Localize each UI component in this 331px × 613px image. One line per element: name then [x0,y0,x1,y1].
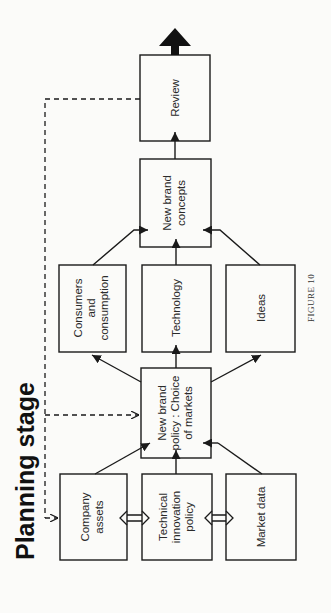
svg-text:New brand: New brand [161,175,173,231]
svg-text:Consumers: Consumers [72,278,84,337]
svg-text:innovation: innovation [170,491,182,543]
output-arrow-icon [159,28,191,55]
consumers-label: Consumers and consumption [72,275,110,340]
svg-text:Technical: Technical [157,493,169,541]
double-arrow-innovation-market [205,511,233,525]
svg-text:Company: Company [79,492,91,541]
new-brand-concepts-label: New brand concepts [161,175,187,231]
review-label: Review [169,78,181,116]
diagram-title: Planning stage [11,382,39,560]
svg-text:policy : Choice: policy : Choice [169,376,181,451]
svg-text:of markets: of markets [182,386,194,440]
double-arrow-assets-innovation [120,511,149,525]
svg-text:consumption: consumption [98,275,110,340]
new-brand-policy-label: New brand policy : Choice of markets [156,376,194,451]
figure-caption: FIGURE 10 [306,274,316,322]
arrow-policy-to-consumers [92,355,141,382]
ideas-label: Ideas [255,294,267,322]
svg-text:assets: assets [93,500,105,533]
arrow-policy-to-ideas [211,355,261,382]
svg-text:and: and [85,298,97,317]
arrow-market-to-policy-line [218,443,262,474]
planning-stage-diagram: Planning stage FIGURE 10 [0,0,331,613]
svg-text:concepts: concepts [175,180,187,226]
svg-text:policy: policy [183,502,195,532]
svg-text:New brand: New brand [156,385,168,441]
technology-label: Technology [170,279,182,337]
technical-innovation-label: Technical innovation policy [157,491,195,543]
market-data-label: Market data [255,486,267,547]
company-assets-label: Company assets [79,492,105,541]
